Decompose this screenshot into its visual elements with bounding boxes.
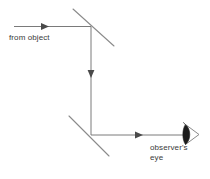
upper-mirror [73, 9, 114, 46]
label-observer-eye: observer's eye [150, 143, 188, 163]
label-observer-line2: eye [150, 153, 188, 163]
figure-canvas: from object observer's eye [0, 0, 210, 179]
eye-icon [183, 123, 199, 145]
lower-mirror [69, 116, 109, 156]
label-from-object: from object [9, 33, 50, 43]
label-observer-line1: observer's [150, 143, 188, 153]
